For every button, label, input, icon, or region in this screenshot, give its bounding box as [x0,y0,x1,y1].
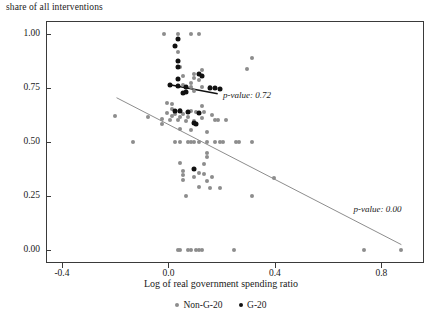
data-point-non-g20 [184,194,188,198]
chart-legend: Non-G-20 G-20 [0,300,442,310]
data-point-non-g20 [200,248,204,252]
data-point-non-g20 [205,140,209,144]
x-axis-title: Log of real government spending ratio [0,278,442,289]
y-tick-mark [46,250,51,251]
data-point-non-g20 [210,175,214,179]
x-tick-label: -0.4 [42,268,82,278]
data-point-g20 [186,109,191,114]
x-tick-mark [168,263,169,268]
data-point-non-g20 [250,56,254,60]
y-tick-mark [46,88,51,89]
data-point-non-g20 [221,140,225,144]
data-point-g20 [207,85,212,90]
data-point-g20 [175,65,180,70]
data-point-g20 [194,121,199,126]
data-point-non-g20 [232,248,236,252]
data-point-non-g20 [216,118,220,122]
data-point-g20 [183,84,188,89]
data-point-non-g20 [200,104,204,108]
data-point-non-g20 [168,118,172,122]
y-tick-mark [46,34,51,35]
data-point-non-g20 [245,67,249,71]
data-point-non-g20 [131,140,135,144]
data-point-non-g20 [250,140,254,144]
annotation-p-value: p-value: 0.72 [223,90,271,100]
data-point-non-g20 [272,176,276,180]
legend-item-non-g20: Non-G-20 [175,300,222,310]
data-point-non-g20 [197,171,201,175]
data-point-non-g20 [176,118,180,122]
data-point-non-g20 [237,140,241,144]
data-point-non-g20 [181,178,185,182]
data-point-non-g20 [160,122,164,126]
x-tick-mark [275,263,276,268]
data-point-non-g20 [205,155,209,159]
data-point-non-g20 [192,140,196,144]
data-point-non-g20 [189,32,193,36]
data-point-non-g20 [170,114,174,118]
data-point-non-g20 [208,186,212,190]
data-point-non-g20 [178,140,182,144]
data-point-non-g20 [178,248,182,252]
y-tick-mark [46,196,51,197]
annotation-p-value: p-value: 0.00 [353,204,401,214]
data-point-g20 [175,58,180,63]
data-point-non-g20 [202,172,206,176]
data-point-g20 [175,77,180,82]
x-tick-mark [62,263,63,268]
data-point-non-g20 [146,115,150,119]
x-tick-label: 0.4 [255,268,295,278]
data-point-non-g20 [197,140,201,144]
data-point-non-g20 [200,116,204,120]
y-tick-label: 0.00 [4,244,40,254]
legend-marker-g20 [239,303,244,308]
legend-marker-non-g20 [175,303,179,307]
y-tick-label: 0.50 [4,136,40,146]
data-point-non-g20 [218,186,222,190]
data-point-g20 [199,74,204,79]
data-point-non-g20 [189,128,193,132]
data-point-non-g20 [197,32,201,36]
data-point-g20 [178,108,183,113]
data-point-non-g20 [224,118,228,122]
legend-label-non-g20: Non-G-20 [183,300,222,310]
data-point-non-g20 [189,248,193,252]
data-point-non-g20 [173,140,177,144]
y-tick-label: 0.75 [4,82,40,92]
data-point-g20 [197,110,202,115]
data-point-g20 [191,167,196,172]
legend-item-g20: G-20 [239,300,267,310]
data-point-non-g20 [178,161,182,165]
data-point-g20 [181,91,186,96]
x-tick-mark [381,263,382,268]
data-point-non-g20 [399,248,403,252]
data-point-g20 [175,37,180,42]
data-point-non-g20 [178,127,182,131]
data-point-non-g20 [200,85,204,89]
y-axis-title: share of all interventions [6,2,103,12]
data-point-non-g20 [213,140,217,144]
data-point-non-g20 [202,162,206,166]
data-point-g20 [167,82,172,87]
data-point-g20 [175,83,180,88]
data-point-non-g20 [362,248,366,252]
data-point-non-g20 [113,114,117,118]
data-point-non-g20 [176,32,180,36]
y-tick-label: 1.00 [4,28,40,38]
data-point-non-g20 [210,113,214,117]
data-point-non-g20 [165,111,169,115]
x-tick-label: 0.8 [361,268,401,278]
scatter-chart: share of all interventions 0.000.250.500… [0,0,442,320]
legend-label-g20: G-20 [247,300,267,310]
data-point-non-g20 [197,78,201,82]
data-point-non-g20 [165,101,169,105]
x-tick-label: 0.0 [148,268,188,278]
data-point-non-g20 [184,119,188,123]
y-tick-label: 0.25 [4,190,40,200]
data-point-non-g20 [205,130,209,134]
data-point-non-g20 [202,110,206,114]
data-point-non-g20 [192,175,196,179]
data-point-non-g20 [192,89,196,93]
y-tick-mark [46,142,51,143]
data-point-non-g20 [205,179,209,183]
